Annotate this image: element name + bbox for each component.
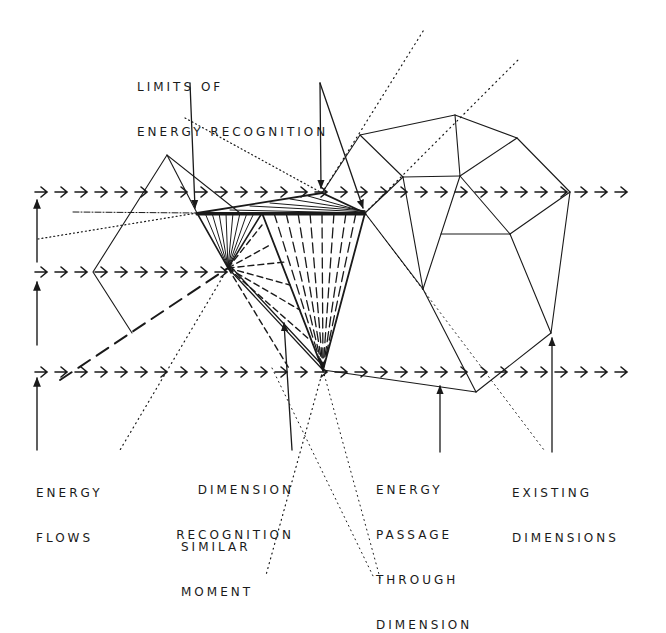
flow-arrow-icon (415, 367, 427, 377)
label-line: EXISTING (512, 486, 619, 501)
existing-dimensions-network (322, 115, 570, 392)
flow-arrow-icon (175, 367, 187, 377)
existing-dimensions-label: EXISTING DIMENSIONS (512, 456, 619, 561)
energy-flows-label: ENERGY FLOWS (36, 456, 103, 561)
dimension-recognition-fan (197, 213, 262, 268)
flow-arrow-icon (535, 367, 547, 377)
flow-arrow-icon (215, 187, 227, 197)
flow-arrow-icon (115, 367, 127, 377)
label-line: DIMENSION (376, 618, 472, 633)
label-line: PASSAGE (376, 528, 472, 543)
label-line: THROUGH (376, 573, 472, 588)
label-line: MOMENT (181, 585, 253, 600)
flow-arrow-icon (335, 187, 347, 197)
flow-arrow-icon (575, 187, 587, 197)
middle-flow-arrows (35, 267, 227, 277)
flow-arrow-icon (175, 187, 187, 197)
flow-arrow-icon (155, 267, 167, 277)
flow-arrow-icon (135, 367, 147, 377)
flow-arrow-icon (595, 187, 607, 197)
label-line: FLOWS (36, 531, 103, 546)
limits-of-energy-recognition-label: LIMITS OF ENERGY RECOGNITION (137, 50, 328, 155)
bottom-flow-arrows (35, 367, 627, 377)
label-line: ENERGY (36, 486, 103, 501)
dashed-diagonal (60, 268, 228, 380)
label-line: SIMILAR (181, 540, 253, 555)
flow-arrow-icon (435, 367, 447, 377)
top-flow-arrows (35, 187, 627, 197)
flow-arrow-icon (95, 187, 107, 197)
label-line: ENERGY RECOGNITION (137, 125, 328, 140)
flow-arrow-icon (75, 267, 87, 277)
flow-arrow-icon (615, 367, 627, 377)
flow-arrow-icon (75, 187, 87, 197)
label-line: LIMITS OF (137, 80, 328, 95)
flow-arrow-icon (235, 367, 247, 377)
flow-arrow-icon (195, 187, 207, 197)
flow-arrow-icon (455, 187, 467, 197)
flow-arrow-icon (155, 367, 167, 377)
flow-arrow-icon (195, 267, 207, 277)
label-line: ENERGY (376, 483, 472, 498)
flow-arrow-icon (595, 367, 607, 377)
flow-arrow-icon (55, 187, 67, 197)
dimension-triangle (262, 213, 365, 370)
label-line: DIMENSIONS (512, 531, 619, 546)
flow-arrow-icon (135, 267, 147, 277)
dash-dot-line (73, 212, 197, 213)
flow-arrow-icon (255, 187, 267, 197)
flow-arrow-icon (35, 367, 47, 377)
flow-arrow-icon (275, 187, 287, 197)
dotted-ray-2 (365, 60, 518, 213)
flow-arrow-icon (495, 187, 507, 197)
flow-arrow-icon (95, 267, 107, 277)
flow-arrow-icon (615, 187, 627, 197)
flow-arrow-icon (475, 367, 487, 377)
flow-arrow-icon (395, 367, 407, 377)
flow-arrow-icon (115, 187, 127, 197)
flow-arrow-icon (515, 367, 527, 377)
flow-arrow-icon (95, 367, 107, 377)
flow-arrow-icon (55, 267, 67, 277)
flow-arrow-icon (195, 367, 207, 377)
flow-arrow-icon (515, 187, 527, 197)
flow-arrow-icon (215, 367, 227, 377)
flow-arrow-icon (75, 367, 87, 377)
dotted-line-left (38, 213, 197, 239)
dotted-ray-1 (322, 28, 425, 193)
flow-arrow-icon (175, 267, 187, 277)
label-line: DIMENSION (160, 483, 294, 498)
flow-arrow-icon (375, 187, 387, 197)
flow-arrow-icon (155, 187, 167, 197)
flow-arrow-icon (115, 267, 127, 277)
similar-moment-label: SIMILAR MOMENT (181, 510, 253, 615)
flow-arrow-icon (35, 267, 47, 277)
flow-arrow-icon (435, 187, 447, 197)
flow-arrow-icon (375, 367, 387, 377)
apex-to-bottom-lines (228, 268, 323, 370)
flow-arrow-icon (35, 187, 47, 197)
flow-arrow-icon (295, 367, 307, 377)
flow-arrow-icon (255, 367, 267, 377)
flow-arrow-icon (275, 367, 287, 377)
flow-arrow-icon (535, 187, 547, 197)
flow-arrow-icon (415, 187, 427, 197)
dotted-ray-down-left (120, 268, 228, 450)
flow-arrow-icon (575, 367, 587, 377)
flow-arrow-icon (555, 367, 567, 377)
dotted-ray-r1 (323, 370, 380, 578)
flow-arrow-icon (235, 187, 247, 197)
energy-passage-through-dimension-label: ENERGY PASSAGE THROUGH DIMENSION (376, 453, 472, 633)
